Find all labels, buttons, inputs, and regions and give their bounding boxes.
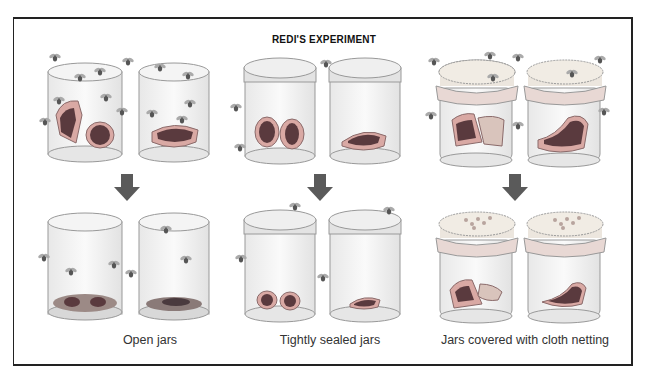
caption-open-jars: Open jars <box>80 333 220 347</box>
caption-sealed-jars: Tightly sealed jars <box>255 333 405 347</box>
open-jar-bottom-left <box>48 213 122 320</box>
caption-netting-jars: Jars covered with cloth netting <box>425 333 625 347</box>
sealed-jar-top-left <box>244 58 316 164</box>
netting-jar-top-left <box>436 60 518 167</box>
sealed-jar-bottom-left <box>244 210 316 322</box>
experiment-illustration <box>0 0 648 386</box>
sealed-jar-top-right <box>329 58 401 164</box>
netting-jar-bottom-left <box>436 212 518 323</box>
arrow-down-icon <box>307 174 333 201</box>
open-jar-bottom-right <box>139 213 209 320</box>
sealed-jar-bottom-right <box>329 210 401 322</box>
netting-jar-top-right <box>524 60 606 167</box>
arrow-down-icon <box>502 174 528 201</box>
arrow-down-icon <box>114 174 140 201</box>
netting-jar-bottom-right <box>524 212 606 323</box>
